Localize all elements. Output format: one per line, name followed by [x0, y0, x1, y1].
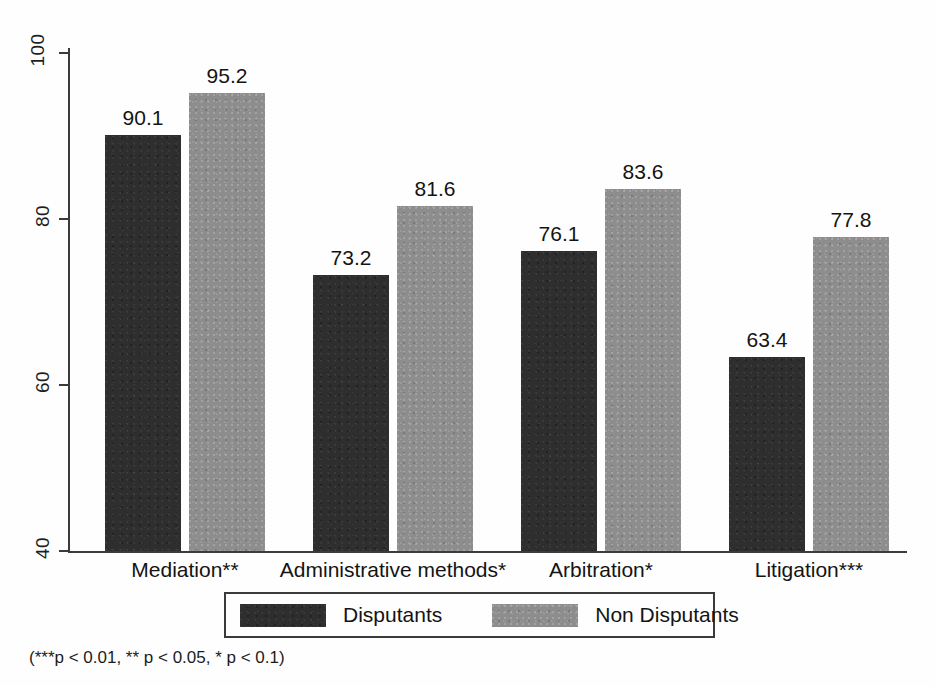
- bar-series-container: 90.195.273.281.676.183.663.477.8: [68, 53, 905, 551]
- y-axis-tick-100: [59, 52, 68, 54]
- legend-entry-disputants: Disputants: [226, 594, 442, 636]
- y-axis-tick-40: [59, 550, 68, 552]
- legend-label-non-disputants: Non Disputants: [595, 603, 739, 627]
- y-axis-label-60: 60: [0, 371, 54, 393]
- y-axis-label-100: 100: [0, 39, 54, 61]
- legend-swatch-non-disputants: [492, 604, 578, 627]
- significance-footnote: (***p < 0.01, ** p < 0.05, * p < 0.1): [29, 648, 285, 668]
- bar-value-label: 77.8: [813, 208, 889, 232]
- bar-non-disputants-3: [605, 189, 681, 551]
- y-axis-tick-60: [59, 384, 68, 386]
- bar-value-label: 95.2: [189, 64, 265, 88]
- bar-disputants-3: [521, 251, 597, 551]
- bar-disputants-2: [313, 275, 389, 551]
- y-axis-label-80: 80: [0, 205, 54, 227]
- bar-disputants-1: [105, 135, 181, 551]
- x-axis-label-4: Litigation***: [629, 558, 935, 582]
- legend-swatch-disputants: [240, 604, 326, 627]
- bar-value-label: 73.2: [313, 246, 389, 270]
- y-axis-label-40: 40: [0, 537, 54, 559]
- y-axis-tick-80: [59, 218, 68, 220]
- chart-canvas: 406080100 90.195.273.281.676.183.663.477…: [0, 0, 935, 686]
- bar-value-label: 90.1: [105, 106, 181, 130]
- bar-non-disputants-1: [189, 93, 265, 551]
- bar-value-label: 63.4: [729, 328, 805, 352]
- bar-value-label: 83.6: [605, 160, 681, 184]
- bar-disputants-4: [729, 357, 805, 551]
- legend-label-disputants: Disputants: [343, 603, 442, 627]
- chart-legend: Disputants Non Disputants: [224, 592, 715, 638]
- bar-value-label: 81.6: [397, 177, 473, 201]
- x-axis-line: [68, 551, 907, 553]
- bar-non-disputants-2: [397, 206, 473, 551]
- legend-entry-non-disputants: Non Disputants: [478, 594, 739, 636]
- bar-value-label: 76.1: [521, 222, 597, 246]
- bar-non-disputants-4: [813, 237, 889, 551]
